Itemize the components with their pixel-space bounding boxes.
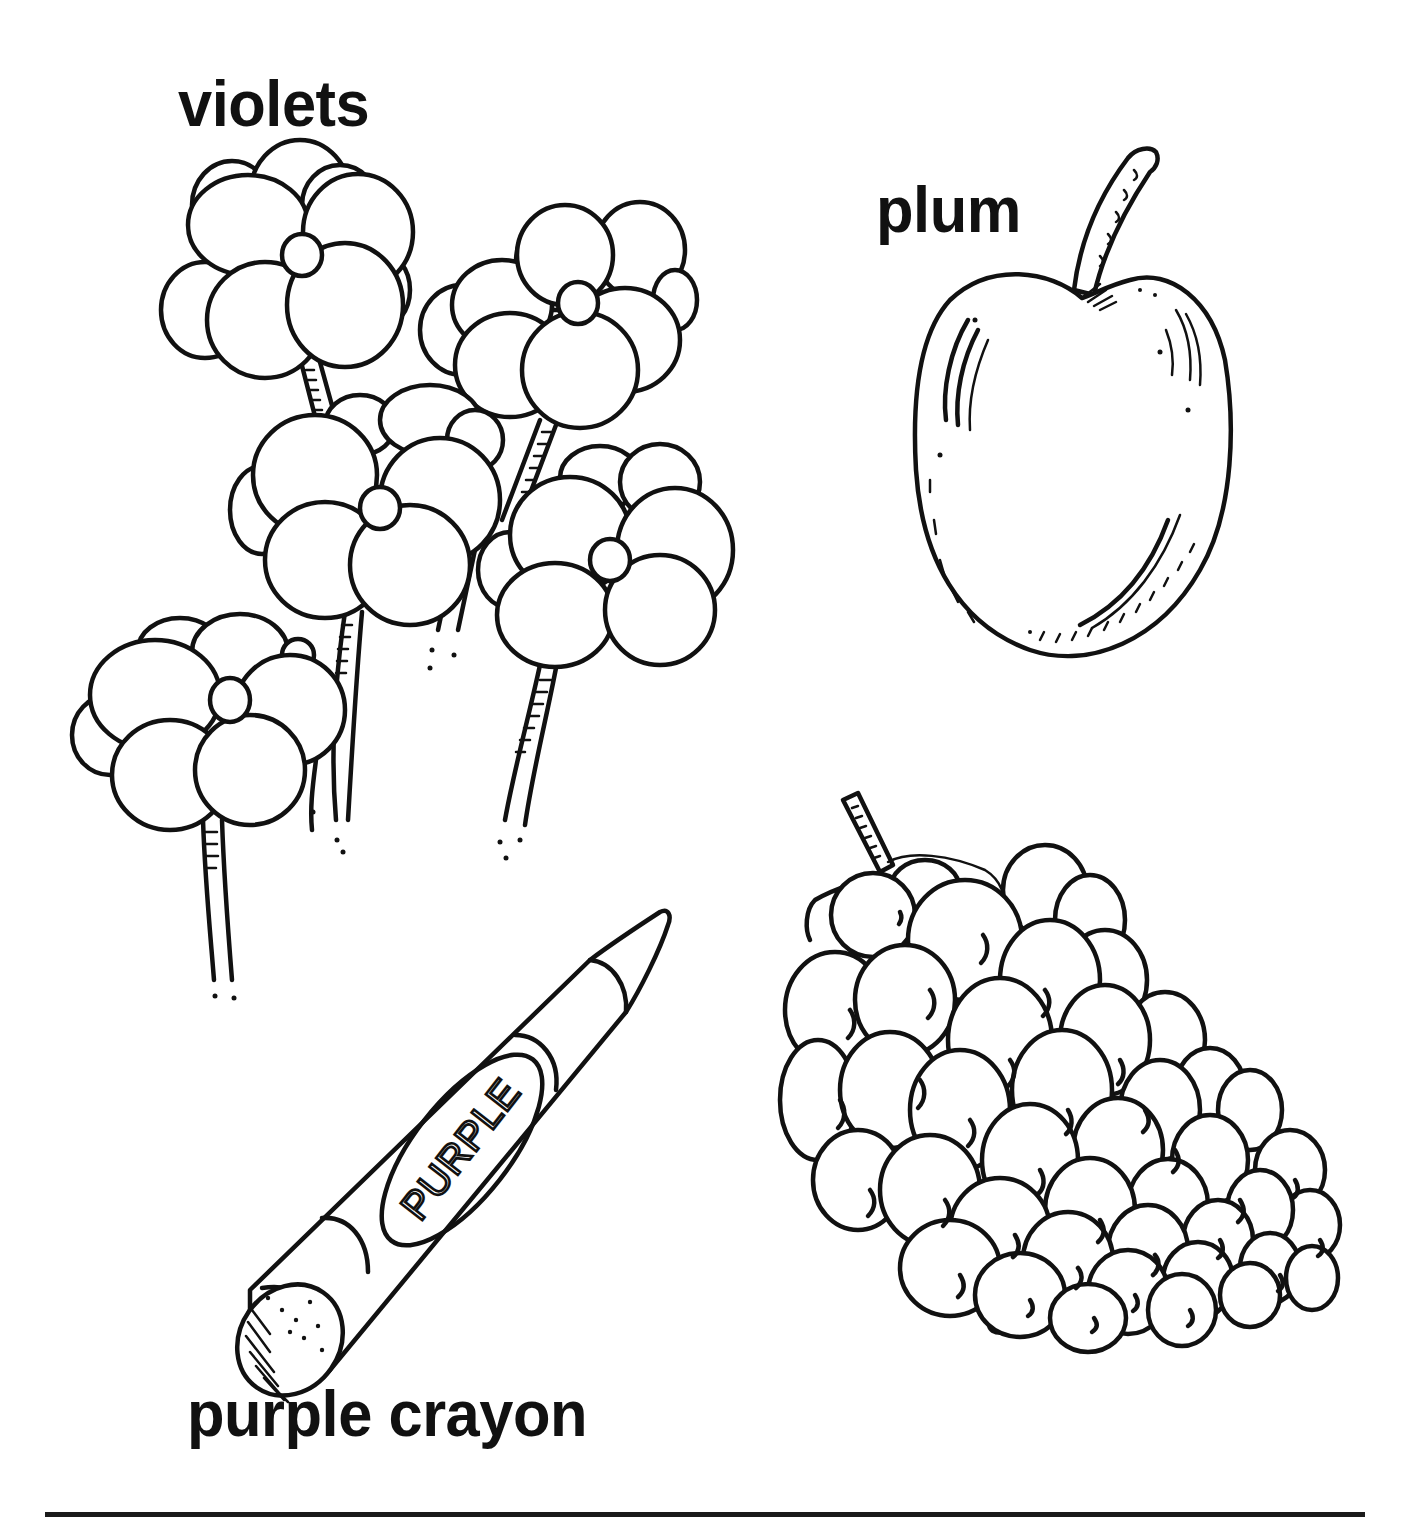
crayon-wrapper-text: PURPLE — [392, 1070, 529, 1228]
label-plum: plum — [876, 178, 1021, 242]
illustration-canvas: PURPLE — [0, 0, 1405, 1531]
violets-flowers-drawing-icon — [72, 140, 733, 1001]
bottom-divider-rule — [45, 1512, 1365, 1517]
violet-flower-2-icon — [420, 202, 697, 428]
violet-stems-icon — [203, 355, 556, 1001]
violet-flower-4-icon — [478, 444, 733, 667]
label-grapes: grapes — [983, 1268, 1182, 1332]
violet-flower-3-icon — [230, 385, 503, 625]
violet-flower-1-icon — [161, 140, 413, 378]
label-violets: violets — [178, 72, 369, 136]
violet-flower-5-icon — [72, 614, 345, 830]
label-purple-crayon: purple crayon — [187, 1382, 587, 1446]
crayon-drawing-icon: PURPLE — [216, 911, 670, 1416]
coloring-worksheet: violets plum grapes purple crayon — [0, 0, 1405, 1531]
